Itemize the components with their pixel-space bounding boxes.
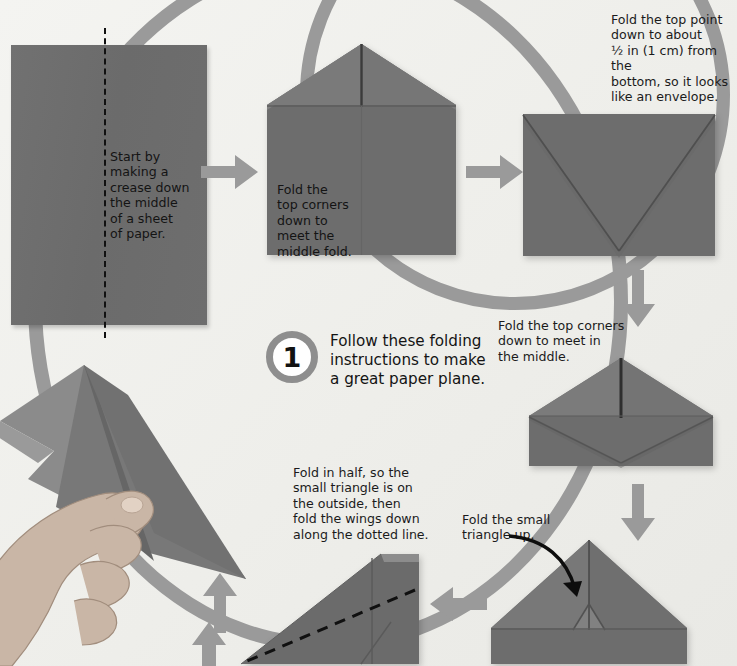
intro-headline: Follow these folding instructions to mak… [330,332,530,389]
arrow-step1-to-step2 [199,152,261,192]
arrow-callout-small-triangle [505,533,595,611]
step-number-badge: 1 [266,331,318,383]
step-1-crease-dashed-line [104,28,106,338]
step-3-caption: Fold the top point down to about ½ in (1… [611,12,737,104]
arrow-step4-to-step5 [618,482,658,544]
arrow-step2-to-step3 [464,152,526,192]
step-3-envelope-shape [521,112,717,258]
step-2-caption: Fold the top corners down to meet the mi… [277,182,352,259]
step-4-peak-over-trapezoid [527,358,715,471]
step-6-caption: Fold in half, so the small triangle is o… [293,465,429,542]
step-1-caption: Start by making a crease down the middle… [110,149,190,241]
arrow-step5-to-step6 [427,584,489,624]
instruction-poster: Start by making a crease down the middle… [0,0,737,666]
finished-plane-in-hand [0,355,294,666]
